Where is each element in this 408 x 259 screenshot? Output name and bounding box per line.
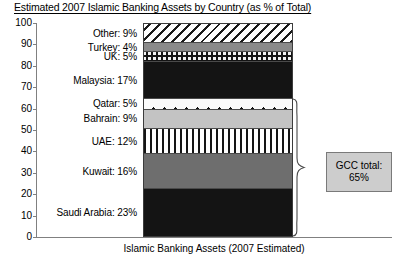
bar-segment[interactable] — [144, 24, 292, 43]
y-tick-label: 50 — [6, 125, 32, 135]
gcc-brace-icon — [291, 98, 307, 237]
bar-segment-label: Other: 9% — [93, 27, 137, 38]
stacked-bar-column[interactable] — [143, 23, 293, 237]
y-tick-label: 60 — [6, 104, 32, 114]
y-tick-label: 100 — [6, 18, 32, 28]
bar-segment[interactable] — [144, 154, 292, 188]
y-tick-mark — [33, 237, 37, 238]
y-tick-label: 80 — [6, 61, 32, 71]
bar-segment-label: UK: 5% — [104, 51, 137, 62]
bar-segment-label: Qatar: 5% — [93, 98, 137, 109]
gcc-total-callout: GCC total: 65% — [326, 152, 392, 192]
bar-segment-label: Saudi Arabia: 23% — [56, 207, 137, 218]
y-tick-label: 10 — [6, 211, 32, 221]
gcc-total-value: 65% — [349, 172, 369, 184]
y-tick-label: 40 — [6, 146, 32, 156]
bar-segment[interactable] — [144, 43, 292, 52]
bar-segment[interactable] — [144, 62, 292, 98]
bar-segment-label: Kuwait: 16% — [83, 165, 138, 176]
bar-segment[interactable] — [144, 99, 292, 110]
bar-segment-label: UAE: 12% — [92, 135, 137, 146]
y-tick-label: 70 — [6, 82, 32, 92]
y-tick-label: 90 — [6, 39, 32, 49]
y-tick-label: 0 — [6, 232, 32, 242]
bar-segment[interactable] — [144, 52, 292, 63]
gcc-total-label: GCC total: — [336, 160, 383, 172]
segment-label-group: Other: 9%Turkey: 4%UK: 5%Malaysia: 17%Qa… — [36, 23, 140, 237]
y-tick-label: 30 — [6, 168, 32, 178]
y-tick-label: 20 — [6, 189, 32, 199]
bar-segment[interactable] — [144, 129, 292, 155]
bar-segment[interactable] — [144, 189, 292, 237]
bar-segment[interactable] — [144, 110, 292, 129]
x-axis-label: Islamic Banking Assets (2007 Estimated) — [36, 243, 392, 255]
page-title: Estimated 2007 Islamic Banking Assets by… — [14, 1, 311, 14]
y-axis-labels: 1009080706050403020100 — [4, 23, 32, 237]
bar-segment-label: Malaysia: 17% — [73, 74, 137, 85]
bar-segment-label: Bahrain: 9% — [84, 113, 137, 124]
